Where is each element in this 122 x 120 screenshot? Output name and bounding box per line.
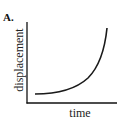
- displacement-curve: [35, 28, 107, 94]
- y-axis-label: displacement: [12, 28, 27, 91]
- x-axis-label: time: [69, 106, 90, 120]
